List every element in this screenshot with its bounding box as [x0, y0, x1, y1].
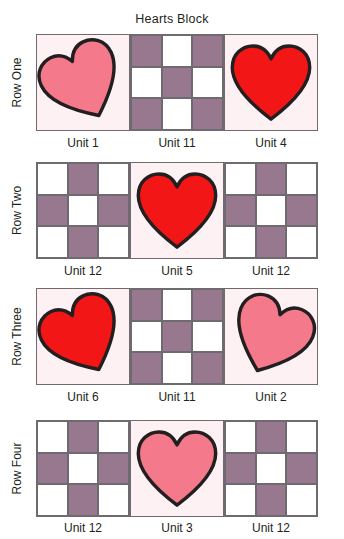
checker-cell-purple — [131, 352, 162, 384]
quilt-unit — [36, 34, 130, 131]
quilt-unit — [130, 34, 224, 131]
quilt-unit — [36, 162, 130, 259]
checker-cell-white — [37, 421, 68, 453]
unit-label-strip: Unit 1Unit 11Unit 4 — [36, 134, 318, 152]
checker-cell-purple — [131, 35, 162, 67]
row-label: Row One — [6, 34, 28, 131]
quilt-unit — [224, 34, 318, 131]
checkerboard-unit — [131, 289, 223, 384]
unit-label-strip: Unit 12Unit 5Unit 12 — [36, 262, 318, 280]
checker-cell-white — [98, 421, 129, 453]
checkerboard-unit — [225, 421, 317, 516]
quilt-unit — [130, 420, 224, 517]
checker-cell-purple — [225, 453, 256, 485]
checker-cell-purple — [37, 453, 68, 485]
checker-cell-white — [192, 321, 223, 353]
quilt-unit — [130, 162, 224, 259]
heart-icon — [37, 289, 129, 384]
checker-cell-white — [98, 484, 129, 516]
checker-cell-white — [286, 163, 317, 195]
checker-cell-white — [68, 195, 99, 227]
checkerboard-unit — [131, 35, 223, 130]
checkerboard-unit — [37, 163, 129, 258]
checker-cell-purple — [192, 289, 223, 321]
checker-cell-white — [225, 226, 256, 258]
row-label: Row Three — [6, 288, 28, 385]
checker-cell-purple — [68, 484, 99, 516]
checker-cell-white — [225, 421, 256, 453]
checker-cell-white — [37, 226, 68, 258]
heart-icon — [131, 163, 223, 258]
checker-cell-white — [225, 484, 256, 516]
checker-cell-purple — [256, 484, 287, 516]
row-label: Row Four — [6, 420, 28, 517]
checker-cell-white — [286, 226, 317, 258]
checker-cell-white — [37, 484, 68, 516]
quilt-unit — [36, 420, 130, 517]
checker-cell-purple — [256, 226, 287, 258]
quilt-unit — [36, 288, 130, 385]
checker-cell-white — [162, 352, 193, 384]
unit-label: Unit 1 — [36, 134, 130, 152]
quilt-unit — [224, 288, 318, 385]
checker-cell-white — [131, 321, 162, 353]
checker-cell-purple — [192, 98, 223, 130]
checker-cell-purple — [192, 352, 223, 384]
checker-cell-purple — [225, 195, 256, 227]
checker-cell-white — [131, 67, 162, 99]
unit-label-strip: Unit 12Unit 3Unit 12 — [36, 519, 318, 537]
checker-cell-purple — [192, 35, 223, 67]
heart-icon — [225, 35, 317, 130]
quilt-row: Row Two — [36, 162, 318, 259]
checker-cell-white — [162, 98, 193, 130]
checker-cell-purple — [37, 195, 68, 227]
checker-cell-purple — [286, 195, 317, 227]
heart-icon — [225, 289, 317, 384]
checker-cell-white — [37, 163, 68, 195]
unit-label-strip: Unit 6Unit 11Unit 2 — [36, 388, 318, 406]
quilt-unit — [224, 420, 318, 517]
checker-cell-purple — [256, 163, 287, 195]
unit-label: Unit 11 — [130, 388, 224, 406]
checker-cell-purple — [256, 421, 287, 453]
checker-cell-white — [225, 163, 256, 195]
checker-cell-white — [256, 453, 287, 485]
unit-label: Unit 3 — [130, 519, 224, 537]
checker-cell-white — [98, 226, 129, 258]
heart-icon — [131, 421, 223, 516]
checker-cell-purple — [68, 226, 99, 258]
heart-icon — [37, 35, 129, 130]
unit-label: Unit 2 — [224, 388, 318, 406]
checker-cell-purple — [98, 195, 129, 227]
checker-cell-white — [286, 484, 317, 516]
unit-label: Unit 12 — [36, 262, 130, 280]
quilt-row: Row Three — [36, 288, 318, 385]
unit-label: Unit 6 — [36, 388, 130, 406]
checker-cell-purple — [98, 453, 129, 485]
quilt-unit — [224, 162, 318, 259]
checker-cell-purple — [162, 67, 193, 99]
checkerboard-unit — [37, 421, 129, 516]
checker-cell-white — [286, 421, 317, 453]
quilt-row: Row Four — [36, 420, 318, 517]
checker-cell-white — [162, 289, 193, 321]
unit-label: Unit 12 — [36, 519, 130, 537]
checker-cell-purple — [286, 453, 317, 485]
unit-label: Unit 4 — [224, 134, 318, 152]
checker-cell-white — [68, 453, 99, 485]
quilt-row: Row One — [36, 34, 318, 131]
checker-cell-purple — [162, 321, 193, 353]
unit-label: Unit 12 — [224, 262, 318, 280]
checker-cell-white — [98, 163, 129, 195]
checker-cell-purple — [68, 163, 99, 195]
checker-cell-purple — [131, 289, 162, 321]
page-title: Hearts Block — [0, 12, 344, 26]
checker-cell-white — [162, 35, 193, 67]
checker-cell-purple — [68, 421, 99, 453]
checker-cell-white — [192, 67, 223, 99]
row-label: Row Two — [6, 162, 28, 259]
quilt-unit — [130, 288, 224, 385]
checker-cell-purple — [131, 98, 162, 130]
unit-label: Unit 11 — [130, 134, 224, 152]
unit-label: Unit 12 — [224, 519, 318, 537]
